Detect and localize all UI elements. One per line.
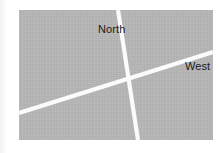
map-panel: North West [19,10,213,140]
map-label-west: West [185,60,210,72]
page-edge-strip [0,0,6,153]
map-label-north: North [98,23,125,35]
road-east-west [19,52,213,113]
map-figure: North West [0,0,221,153]
